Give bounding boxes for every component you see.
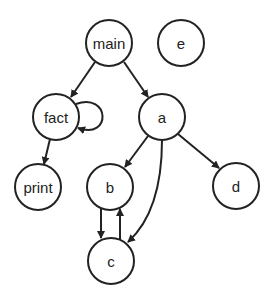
node-label: main [93, 35, 126, 52]
node-c: c [88, 238, 134, 284]
edge-fact-print [44, 139, 50, 164]
node-label: e [177, 35, 185, 52]
node-d: d [213, 163, 259, 209]
node-print: print [15, 164, 61, 210]
node-fact: fact [33, 94, 79, 140]
edge-main-fact [71, 62, 95, 97]
node-e: e [158, 20, 204, 66]
node-label: b [106, 179, 114, 196]
edge-main-a [124, 62, 148, 97]
edges [44, 62, 219, 242]
node-label: fact [44, 109, 69, 126]
node-label: print [23, 179, 53, 196]
node-a: a [139, 94, 185, 140]
edge-a-d [178, 134, 219, 168]
edge-a-b [125, 136, 148, 167]
node-main: main [86, 20, 132, 66]
call-graph-diagram: main e fact a print b d c [0, 0, 274, 298]
node-label: d [232, 178, 240, 195]
node-label: c [107, 253, 115, 270]
node-label: a [158, 109, 167, 126]
node-b: b [87, 164, 133, 210]
